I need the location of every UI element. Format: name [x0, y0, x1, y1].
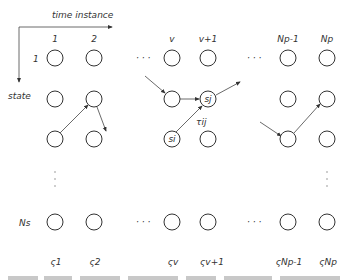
node [319, 131, 335, 147]
row-label-ns: Ns [19, 218, 31, 228]
sigma-label-np: ςNp [319, 257, 337, 267]
sigma-label-np-minus-1: ςNp-1 [276, 257, 303, 267]
node [47, 50, 63, 66]
column-label-np-minus-1: Np-1 [277, 34, 298, 44]
node [319, 91, 335, 107]
node [47, 214, 63, 230]
tij-label: τij [196, 117, 207, 127]
node [200, 50, 216, 66]
node [319, 50, 335, 66]
node [280, 91, 296, 107]
edge-1-3-to-2-2 [60, 105, 88, 133]
edge-in-to-v-2 [145, 76, 165, 93]
state-label: state [8, 91, 31, 101]
column-label-2: 2 [91, 34, 97, 44]
cropped-caption [8, 276, 340, 280]
time-instance-label: time instance [52, 10, 114, 20]
edge-in-to-np-minus-1 [260, 122, 281, 136]
node [280, 214, 296, 230]
vertical-ellipsis-right [326, 171, 327, 186]
column-label-np: Np [321, 34, 334, 44]
edges [60, 76, 320, 136]
nodes [47, 50, 335, 230]
horizontal-ellipsis: · · · [136, 217, 150, 227]
node [164, 214, 180, 230]
sigma-label-2: ς2 [89, 257, 100, 267]
node [86, 50, 102, 66]
sj-label: sj [204, 94, 212, 104]
trellis-diagram: time instance state 1 2 v v+1 Np-1 Np 1 … [0, 0, 351, 280]
edge-sj-out [216, 82, 240, 95]
node [86, 91, 102, 107]
si-label: si [168, 134, 176, 144]
node [47, 131, 63, 147]
column-label-1: 1 [52, 34, 58, 44]
sigma-label-v: ςv [168, 257, 179, 267]
node [200, 214, 216, 230]
sigma-labels: ς1 ς2 ςv ςv+1 ςNp-1 ςNp [50, 257, 337, 267]
node [280, 50, 296, 66]
column-label-v: v [169, 34, 175, 44]
row-label-1: 1 [33, 54, 39, 64]
horizontal-ellipsis: · · · [136, 53, 150, 63]
node [164, 50, 180, 66]
horizontal-ellipsis: · · · [247, 217, 261, 227]
node [86, 131, 102, 147]
horizontal-ellipsis: · · · [247, 53, 261, 63]
edge-2-2-to-down [97, 107, 106, 131]
node [47, 91, 63, 107]
column-label-v-plus-1: v+1 [199, 34, 218, 44]
sigma-label-v-plus-1: ςv+1 [200, 257, 224, 267]
node [86, 214, 102, 230]
vertical-ellipsis-left [54, 171, 55, 186]
column-headers: 1 2 v v+1 Np-1 Np [52, 34, 333, 44]
node [280, 131, 296, 147]
node [319, 214, 335, 230]
sigma-label-1: ς1 [50, 257, 61, 267]
node [200, 131, 216, 147]
node [164, 91, 180, 107]
edge-np-minus-1-to-np [294, 104, 320, 133]
